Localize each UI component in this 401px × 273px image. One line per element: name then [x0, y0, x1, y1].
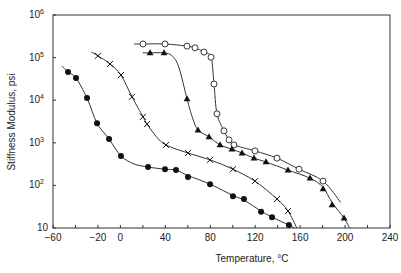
y-tick-label: 106 — [29, 8, 44, 20]
cross-marker — [129, 94, 135, 100]
filled-triangle-marker — [147, 49, 154, 55]
filled-circle-marker — [65, 69, 71, 75]
filled-circle-marker — [84, 95, 90, 101]
open-circle-marker — [226, 137, 232, 143]
filled-triangle-marker — [329, 201, 336, 207]
filled-circle-marker — [241, 196, 247, 202]
filled-triangle-marker — [195, 126, 202, 132]
filled-circle-marker — [185, 174, 191, 180]
filled-circle-marker — [269, 214, 275, 220]
cross-marker — [185, 150, 191, 156]
filled-triangle-marker — [217, 141, 224, 147]
filled-circle-marker — [94, 120, 100, 126]
cross-curve — [91, 52, 297, 228]
filled-circle-curve — [62, 66, 295, 228]
x-tick-label: −20 — [89, 232, 106, 243]
filled-circle-marker — [106, 136, 112, 142]
open-circle-marker — [214, 111, 220, 117]
cross-marker — [144, 121, 150, 127]
y-tick-label: 105 — [29, 51, 44, 63]
open-circle-marker — [211, 81, 217, 87]
data-curves — [62, 44, 350, 228]
x-tick-label: 160 — [292, 232, 309, 243]
filled-circle-marker — [207, 181, 213, 187]
filled-circle-marker — [173, 167, 179, 173]
filled-circle-marker — [258, 209, 264, 215]
x-tick-label: 200 — [337, 232, 354, 243]
plot-frame — [53, 15, 390, 228]
cross-marker — [163, 142, 169, 148]
open-circle-marker — [296, 166, 302, 172]
data-markers — [65, 41, 347, 228]
filled-circle-marker — [145, 164, 151, 170]
y-axis-title: Stiffness Modulus, psi — [6, 73, 17, 170]
open-circle-marker — [184, 43, 190, 49]
filled-circle-marker — [162, 166, 168, 172]
cross-marker — [274, 196, 280, 202]
y-tick-label: 104 — [29, 93, 44, 105]
open-circle-marker — [201, 49, 207, 55]
open-circle-marker — [221, 128, 227, 134]
cross-marker — [207, 157, 213, 163]
cross-marker — [95, 53, 101, 59]
cross-marker — [230, 166, 236, 172]
y-tick-label: 102 — [29, 178, 44, 190]
filled-triangle-marker — [206, 133, 213, 139]
cross-marker — [107, 61, 113, 67]
open-circle-marker — [320, 178, 326, 184]
y-axis-ticks: 10102103104105106 — [29, 8, 56, 233]
cross-marker — [285, 208, 291, 214]
stiffness-temperature-chart: −60−2004080120160200240 1010210310410510… — [0, 0, 401, 273]
open-circle-marker — [252, 148, 258, 154]
cross-marker — [118, 72, 124, 78]
open-circle-marker — [162, 41, 168, 47]
x-axis-title: Temperature, °C — [216, 253, 289, 264]
cross-marker — [252, 178, 258, 184]
filled-circle-marker — [286, 222, 292, 228]
filled-circle-marker — [73, 75, 79, 81]
x-tick-label: 80 — [205, 232, 217, 243]
filled-circle-marker — [230, 193, 236, 199]
cross-marker — [140, 114, 146, 120]
x-tick-label: 40 — [160, 232, 172, 243]
x-tick-label: −60 — [45, 232, 62, 243]
open-circle-marker — [192, 45, 198, 51]
y-tick-label: 10 — [37, 222, 49, 233]
open-circle-marker — [274, 155, 280, 161]
open-circle-marker — [140, 41, 146, 47]
x-tick-label: 240 — [382, 232, 399, 243]
x-tick-label: 0 — [118, 232, 124, 243]
filled-triangle-marker — [320, 185, 327, 191]
filled-circle-marker — [118, 153, 124, 159]
open-circle-marker — [208, 54, 214, 60]
filled-triangle-marker — [184, 95, 191, 101]
y-tick-label: 103 — [29, 136, 44, 148]
x-tick-label: 120 — [247, 232, 264, 243]
